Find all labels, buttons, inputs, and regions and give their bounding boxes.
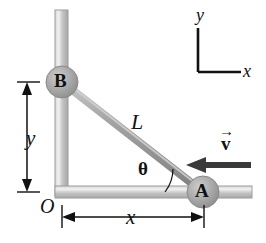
horizontal-rail [55, 186, 252, 198]
axis-y-label: y [196, 6, 204, 24]
rod-highlight [63, 80, 204, 190]
y-dimension-label: y [26, 128, 35, 149]
rod-length-label: L [131, 111, 143, 133]
origin-label: O [40, 196, 54, 216]
axis-x-label: x [243, 62, 251, 80]
rod-group [62, 80, 204, 192]
x-dimension-label: x [126, 207, 135, 228]
ball-a-label: A [195, 181, 209, 200]
x-dimension-arrowhead-right [191, 212, 204, 222]
velocity-arrow-head [186, 157, 206, 173]
physics-diagram-figure: y x L θ O B A y x → v [0, 0, 266, 243]
ball-b-label: B [54, 71, 67, 90]
velocity-arrow [186, 157, 251, 173]
rod-length-L [62, 82, 203, 192]
vertical-rail [55, 10, 68, 196]
angle-theta-label: θ [138, 159, 148, 178]
axes-indicator [198, 28, 241, 72]
y-dimension-arrowhead-top [22, 82, 32, 95]
y-dimension-arrowhead-bottom [22, 179, 32, 192]
velocity-label: v [221, 134, 231, 153]
x-dimension-arrowhead-left [62, 212, 75, 222]
